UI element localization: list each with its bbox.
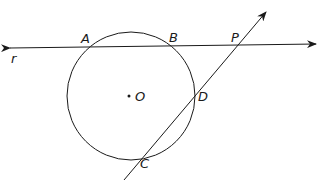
label-b: B — [169, 31, 178, 44]
circle-o — [67, 32, 195, 160]
label-c: C — [140, 157, 149, 170]
line-r — [10, 44, 316, 48]
secant-line-pc — [124, 12, 266, 180]
label-d: D — [198, 90, 208, 103]
label-a: A — [81, 32, 90, 45]
center-point-o — [128, 95, 131, 98]
label-p: P — [231, 31, 239, 44]
geometry-diagram — [0, 0, 320, 180]
label-o: O — [135, 90, 145, 103]
label-r: r — [11, 52, 16, 65]
